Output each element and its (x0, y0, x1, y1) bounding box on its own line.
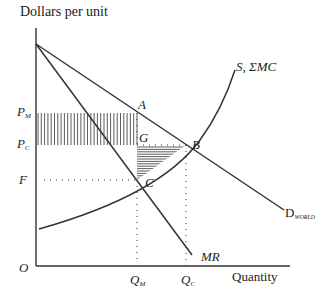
point-c-label: C (145, 176, 154, 189)
pm-label: PM (17, 105, 31, 120)
chart-canvas (0, 0, 332, 301)
deadweight-triangle-shading (137, 147, 190, 178)
transfer-rectangle-shading (38, 113, 137, 145)
qc-label: QC (181, 273, 195, 288)
f-label: F (19, 173, 27, 186)
origin-label: O (19, 261, 28, 274)
y-axis-label: Dollars per unit (20, 5, 108, 19)
x-axis-label: Quantity (232, 270, 278, 283)
point-g-label: G (139, 131, 148, 144)
qm-label: QM (130, 273, 145, 288)
mr-label: MR (201, 250, 220, 263)
point-b-label: B (192, 138, 200, 151)
supply-label: S, ΣMC (236, 60, 276, 73)
pc-label: PC (17, 137, 30, 152)
monopoly-cartel-chart: Dollars per unit Quantity O PM PC F QM Q… (0, 0, 332, 301)
point-a-label: A (138, 98, 146, 111)
demand-label: DWORLD (285, 206, 315, 220)
